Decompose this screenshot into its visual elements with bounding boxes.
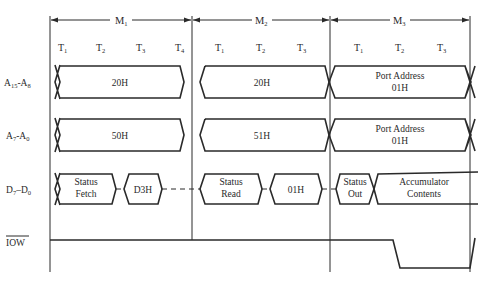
row-a15-a8: 20H 20H Port Address 01H [55, 65, 475, 99]
m3-label: M3 [393, 15, 406, 27]
accumulator-line2: Contents [407, 189, 441, 199]
arrowhead-icon [184, 18, 191, 23]
signal-label-d7-d0: D7–D0 [6, 185, 31, 196]
signal-label-a15-a8: A15-A8 [4, 78, 31, 89]
signal-label-iow: IOW [6, 238, 25, 248]
status-out-line2: Out [348, 189, 363, 199]
m3-t1: T1 [354, 42, 363, 54]
a15-m3-value-line1: Port Address [376, 71, 425, 81]
d3h-value: D3H [134, 185, 153, 195]
status-fetch-line2: Fetch [75, 189, 96, 199]
status-read-line2: Read [221, 189, 241, 199]
status-fetch-line1: Status [74, 177, 98, 187]
status-read-line1: Status [219, 177, 243, 187]
timing-diagram: M1 M2 M3 T1 T2 T3 T4 T1 T2 T3 T1 T2 T3 A… [0, 0, 487, 282]
data-01h-value: 01H [288, 185, 305, 195]
arrowhead-icon [462, 18, 469, 23]
a15-m2-value: 20H [254, 78, 271, 88]
m2-t3: T3 [297, 42, 306, 54]
m1-label: M1 [115, 15, 128, 27]
m1-t3: T3 [136, 42, 145, 54]
arrowhead-icon [193, 18, 200, 23]
m1-t2: T2 [96, 42, 105, 54]
arrowhead-icon [331, 18, 338, 23]
t-state-labels: T1 T2 T3 T4 T1 T2 T3 T1 T2 T3 [58, 42, 446, 54]
row-a7-a0: 50H 51H Port Address 01H [55, 118, 475, 152]
m1-t4: T4 [175, 42, 185, 54]
signal-labels: A15-A8 A7-A0 D7–D0 IOW [4, 78, 31, 248]
row-d7-d0: Status Fetch D3H Status Read 01H Status … [55, 172, 478, 205]
machine-cycle-header: M1 M2 M3 [51, 15, 469, 27]
iow-waveform [50, 238, 475, 268]
arrowhead-icon [51, 18, 58, 23]
a7-m3-value-line2: 01H [392, 136, 409, 146]
m3-t3: T3 [437, 42, 446, 54]
accumulator-line1: Accumulator [399, 177, 449, 187]
m2-label: M2 [255, 15, 268, 27]
m1-t1: T1 [58, 42, 67, 54]
a15-m3-value-line2: 01H [392, 83, 409, 93]
a7-m1-value: 50H [112, 131, 129, 141]
m2-t2: T2 [256, 42, 265, 54]
a7-m3-value-line1: Port Address [376, 124, 425, 134]
signal-label-a7-a0: A7-A0 [6, 131, 29, 142]
m3-t2: T2 [395, 42, 404, 54]
m2-t1: T1 [215, 42, 224, 54]
a7-m2-value: 51H [254, 131, 271, 141]
row-iow [50, 238, 475, 268]
a15-m1-value: 20H [112, 78, 129, 88]
status-out-line1: Status [343, 177, 367, 187]
arrowhead-icon [322, 18, 329, 23]
